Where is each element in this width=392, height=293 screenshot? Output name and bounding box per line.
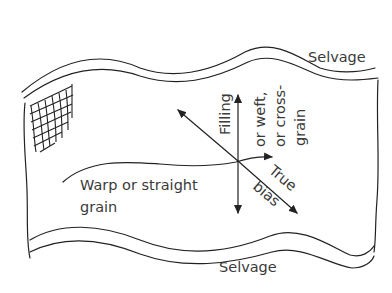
fabric-grain-diagram: Selvage Selvage Filling or weft, or cros…: [0, 0, 392, 293]
bottom-selvage-edge: [30, 227, 374, 268]
weave-mesh-icon: [30, 84, 73, 152]
warp-label-line2: grain: [80, 199, 117, 215]
filling-label-line1: Filling: [217, 93, 233, 135]
filling-label-line3: or cross-: [272, 85, 288, 147]
filling-label-line2: or weft,: [252, 92, 268, 147]
fabric-right-edge: [374, 80, 378, 252]
warp-label-line1: Warp or straight: [80, 177, 198, 193]
selvage-top-label: Selvage: [308, 49, 366, 65]
selvage-bottom-label: Selvage: [219, 259, 277, 275]
filling-label-line4: grain: [292, 109, 308, 146]
fabric-left-edge: [24, 103, 30, 258]
